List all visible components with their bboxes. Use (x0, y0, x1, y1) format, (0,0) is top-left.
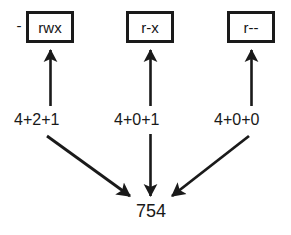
leading-file-type-dash: - (12, 18, 26, 33)
octal-total-value: 754 (126, 202, 176, 220)
arrow-down-owner (47, 136, 130, 196)
sum-expression-owner: 4+2+1 (14, 112, 59, 128)
sum-expression-group: 4+0+1 (114, 112, 159, 128)
permission-box-owner-label: rwx (38, 20, 61, 35)
permission-octal-diagram: - rwx r-x r-- 4+2+1 4+0+1 4+0+0 754 (0, 0, 291, 235)
arrow-down-other (172, 136, 249, 196)
permission-box-group: r-x (126, 11, 174, 43)
permission-box-other-label: r-- (244, 20, 259, 35)
permission-box-owner: rwx (26, 11, 74, 43)
sum-expression-other: 4+0+0 (214, 112, 259, 128)
permission-box-other: r-- (227, 11, 275, 43)
permission-box-group-label: r-x (141, 20, 159, 35)
